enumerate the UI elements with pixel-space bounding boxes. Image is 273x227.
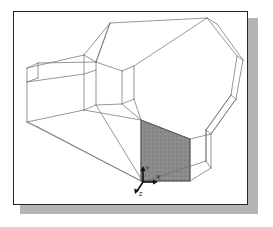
figure-root: Y X Z 3D wireframe solid model with one … — [0, 0, 273, 227]
figure-frame-border — [13, 11, 248, 205]
